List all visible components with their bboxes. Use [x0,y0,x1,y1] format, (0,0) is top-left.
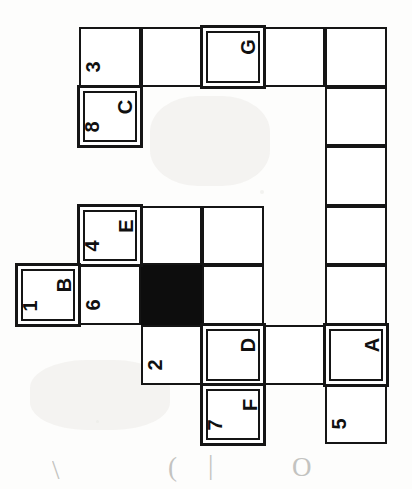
cell-letter-label: F [240,398,260,410]
cell-letter-label: B [54,278,74,292]
cell-number-label: 2 [144,359,164,370]
grid-cell[interactable] [141,265,203,325]
grid-cell[interactable] [325,146,387,206]
cell-number-label: 8 [82,122,102,133]
grid-cell[interactable]: B1 [15,263,81,327]
grid-cell[interactable]: 2 [141,325,203,385]
grid-cell[interactable] [325,265,387,325]
cell-number-label: 7 [205,420,225,431]
grid-cell[interactable] [325,206,387,266]
cell-number-label: 4 [82,241,102,252]
grid-cell[interactable] [141,206,203,266]
grid-cell[interactable]: G [200,25,266,89]
grid-cell[interactable]: D [200,323,266,387]
cell-letter-label: D [239,338,259,352]
cell-letter-label: A [362,338,382,352]
grid-cell[interactable] [202,206,264,266]
handwriting-mark: \ [52,455,60,486]
grid-diagram: 3GC8E4B162DAF75 [0,0,412,489]
cell-number-label: 1 [20,300,40,311]
handwriting-mark: ( [168,452,177,483]
cell-letter-label: G [238,39,258,55]
cell-letter-label: C [115,99,135,113]
scanned-page: 3GC8E4B162DAF75 \(|O [0,0,412,489]
grid-cell[interactable]: 5 [325,385,387,445]
grid-cell[interactable]: 6 [79,265,141,325]
grid-cell[interactable] [264,325,326,385]
grid-cell[interactable] [325,87,387,147]
cell-letter-label: E [116,219,136,232]
grid-cell[interactable]: C8 [77,85,143,149]
grid-cell[interactable]: F7 [200,383,266,447]
cell-number-label: 5 [329,419,349,430]
grid-cell[interactable] [202,265,264,325]
cell-number-label: 6 [83,299,103,310]
cell-number-label: 3 [83,61,103,72]
handwriting-mark: O [292,452,312,483]
grid-cell[interactable]: A [323,323,389,387]
grid-cell[interactable]: E4 [77,204,143,268]
grid-cell[interactable] [325,27,387,87]
handwriting-mark: | [208,450,213,481]
grid-cell[interactable] [141,27,203,87]
grid-cell[interactable]: 3 [79,27,141,87]
grid-cell[interactable] [264,27,326,87]
